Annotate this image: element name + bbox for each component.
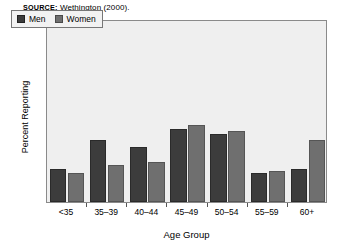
x-axis-tick-mark: [287, 203, 288, 207]
x-axis-tick-label: 50–54: [215, 207, 239, 217]
bar-women-55–59: [269, 171, 286, 202]
bar-men-50–54: [210, 134, 227, 202]
x-axis-tick-mark: [86, 203, 87, 207]
legend-item-women: Women: [55, 14, 96, 24]
bar-men-45–49: [170, 129, 187, 202]
chart-legend: MenWomen: [11, 10, 103, 28]
x-axis-title: Age Group: [46, 229, 327, 240]
y-axis: 50454035302520151050: [0, 0, 46, 251]
legend-label: Women: [67, 14, 96, 24]
x-axis-tick-label: 45–49: [175, 207, 199, 217]
x-axis-tick-label: <35: [59, 207, 73, 217]
x-axis-tick-mark: [126, 203, 127, 207]
bar-women-60+: [309, 140, 326, 202]
x-axis-tick-mark: [207, 203, 208, 207]
bar-men-55–59: [251, 173, 268, 202]
figure-container: SOURCE: Wethington (2000). Percent Repor…: [0, 0, 343, 251]
legend-label: Men: [29, 14, 46, 24]
bar-men-40–44: [130, 147, 147, 202]
plot-area: [46, 20, 327, 203]
legend-swatch-women-icon: [55, 15, 63, 23]
legend-item-men: Men: [17, 14, 46, 24]
bar-women-40–44: [148, 162, 165, 202]
bar-men-60+: [291, 169, 308, 202]
x-axis-tick-label: 60+: [300, 207, 314, 217]
bar-women-35–39: [108, 165, 125, 202]
bar-women-<35: [68, 173, 85, 202]
bar-men-35–39: [90, 140, 107, 202]
bar-women-45–49: [188, 125, 205, 202]
bar-men-<35: [50, 169, 67, 202]
x-axis-tick-mark: [166, 203, 167, 207]
legend-swatch-men-icon: [17, 15, 25, 23]
bar-women-50–54: [228, 131, 245, 202]
x-axis-tick-mark: [247, 203, 248, 207]
x-axis-tick-label: 35–39: [94, 207, 118, 217]
x-axis-tick-label: 40–44: [135, 207, 159, 217]
x-axis-tick-label: 55–59: [255, 207, 279, 217]
